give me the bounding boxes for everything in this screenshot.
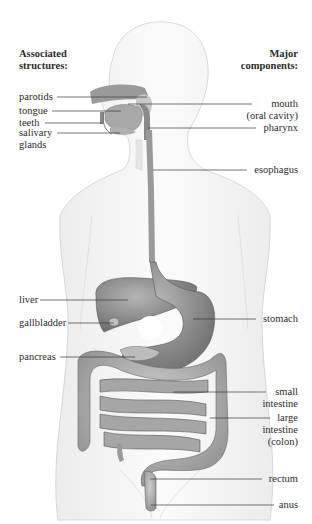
major-components-heading: Major components:: [241, 48, 298, 72]
label-rectum: rectum: [269, 473, 298, 485]
label-liver: liver: [19, 294, 38, 306]
label-tongue: tongue: [19, 105, 48, 117]
label-esophagus: esophagus: [254, 164, 298, 176]
associated-structures-heading: Associated structures:: [19, 48, 68, 72]
label-pharynx: pharynx: [264, 122, 298, 134]
tongue: [105, 105, 142, 132]
gallbladder: [109, 318, 119, 326]
label-parotids: parotids: [19, 91, 53, 103]
omental-space: [138, 316, 162, 340]
label-large-intestine: large intestine (colon): [262, 412, 298, 448]
label-gallbladder: gallbladder: [19, 317, 66, 329]
trachea: [136, 140, 142, 170]
label-pancreas: pancreas: [19, 351, 56, 363]
label-anus: anus: [279, 499, 298, 511]
label-mouth: mouth (oral cavity): [246, 98, 298, 122]
label-small-intestine: small intestine: [262, 386, 298, 410]
label-salivary-glands: salivary glands: [19, 127, 52, 151]
label-stomach: stomach: [263, 313, 298, 325]
